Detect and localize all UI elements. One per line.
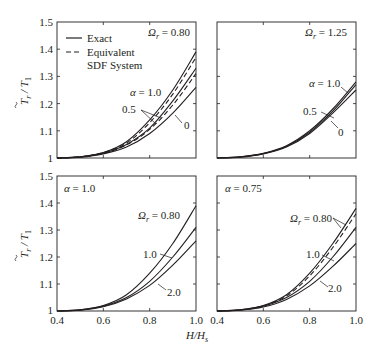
svg-text:0: 0 — [338, 126, 344, 138]
svg-text:1.2: 1.2 — [39, 251, 53, 263]
svg-text:α = 1.0: α = 1.0 — [64, 182, 96, 194]
svg-text:Tr / T1: Tr / T1 — [18, 77, 33, 105]
svg-text:0.5: 0.5 — [303, 105, 317, 117]
svg-text:Ωr = 0.80: Ωr = 0.80 — [290, 212, 333, 227]
svg-text:Ωr = 1.25: Ωr = 1.25 — [305, 26, 348, 41]
svg-text:Tr / T1: Tr / T1 — [18, 230, 33, 258]
svg-text:0.6: 0.6 — [96, 314, 110, 326]
svg-text:1.5: 1.5 — [39, 170, 53, 182]
svg-text:1.0: 1.0 — [349, 314, 363, 326]
curve-bottom-right — [217, 214, 356, 311]
legend-equivalent-label: Equivalent — [87, 46, 135, 58]
curves — [57, 52, 356, 311]
svg-text:0.6: 0.6 — [256, 314, 270, 326]
x-tick-labels-left: 0.4 0.6 0.8 1.0 — [50, 314, 203, 326]
svg-text:1.2: 1.2 — [39, 98, 53, 110]
svg-text:1.3: 1.3 — [39, 70, 53, 82]
y-tick-labels-top: 1 1.1 1.2 1.3 1.4 1.5 — [39, 16, 53, 164]
svg-text:2.0: 2.0 — [328, 282, 342, 294]
curve-top-right — [217, 90, 356, 158]
svg-text:0.8: 0.8 — [143, 314, 157, 326]
svg-text:α = 0.75: α = 0.75 — [225, 182, 262, 194]
x-axis-label: H/Hs — [185, 329, 208, 344]
legend: Exact Equivalent SDF System — [66, 32, 143, 71]
y-tick-labels-bottom: 1 1.1 1.2 1.3 1.4 1.5 — [39, 170, 53, 316]
panel-bottom-right-annotations: α = 0.75 Ωr = 0.80 1.0 2.0 — [225, 182, 346, 294]
panel-top-right-frame — [217, 22, 356, 158]
svg-text:α = 1.0: α = 1.0 — [309, 77, 341, 89]
svg-text:0.4: 0.4 — [50, 314, 64, 326]
svg-text:1: 1 — [48, 152, 54, 164]
figure: 1 1.1 1.2 1.3 1.4 1.5 1 1.1 1.2 1.3 1.4 … — [0, 0, 381, 359]
svg-text:1.0: 1.0 — [306, 248, 320, 260]
svg-text:0: 0 — [184, 119, 190, 131]
svg-text:1.1: 1.1 — [39, 125, 53, 137]
panel-top-right-annotations: Ωr = 1.25 α = 1.0 0.5 0 — [303, 26, 348, 138]
svg-text:1.3: 1.3 — [39, 224, 53, 236]
svg-text:α = 1.0: α = 1.0 — [130, 86, 162, 98]
legend-sdf-label: SDF System — [87, 59, 143, 71]
svg-text:0.5: 0.5 — [122, 103, 136, 115]
svg-text:2.0: 2.0 — [167, 286, 181, 298]
svg-text:1.4: 1.4 — [39, 197, 53, 209]
svg-text:Ωr = 0.80: Ωr = 0.80 — [138, 209, 181, 224]
svg-text:1.0: 1.0 — [143, 248, 157, 260]
legend-exact-label: Exact — [87, 32, 112, 44]
y-axis-label-bottom: Tr / T1 — [15, 230, 33, 261]
svg-text:1.5: 1.5 — [39, 16, 53, 28]
svg-text:0.8: 0.8 — [303, 314, 317, 326]
svg-text:1.4: 1.4 — [39, 43, 53, 55]
svg-text:Ωr = 0.80: Ωr = 0.80 — [148, 26, 191, 41]
x-tick-labels-right: 0.4 0.6 0.8 1.0 — [210, 314, 363, 326]
curve-bottom-left — [57, 241, 196, 311]
svg-text:1.1: 1.1 — [39, 278, 53, 290]
panel-bottom-left-annotations: α = 1.0 Ωr = 0.80 1.0 2.0 — [64, 182, 181, 298]
svg-text:1.0: 1.0 — [189, 314, 203, 326]
svg-text:0.4: 0.4 — [210, 314, 224, 326]
y-axis-label-top: Tr / T1 — [15, 77, 33, 108]
